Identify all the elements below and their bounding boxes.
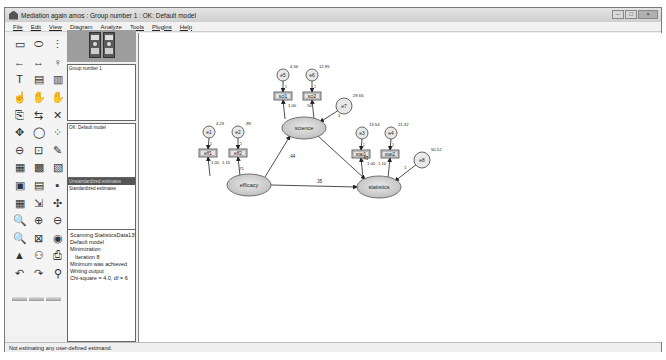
bayesian-icon: ▲ [14,250,25,261]
list-variables-model-icon: ▤ [34,74,44,85]
path-science-sci1[interactable] [283,100,285,119]
view-input-diagram-button[interactable] [89,32,101,58]
group-item[interactable]: Group number 1 [68,65,135,72]
undo-tool[interactable]: ↶ [10,265,29,283]
calculate-estimates-tool[interactable]: ▧ [48,159,67,177]
variance-label: 4.23 [216,121,225,126]
view-output-diagram-button[interactable] [103,32,115,58]
fit-to-page-tool[interactable]: ⊠ [29,230,48,248]
drag-properties-tool[interactable]: ⇲ [29,194,48,212]
log-line: Default model [68,239,135,246]
groups-panel: Group number 1 [67,64,136,121]
estimate-label: .54 [306,103,312,108]
menu-edit[interactable]: Edit [31,24,41,30]
menu-file[interactable]: File [13,24,23,30]
draw-path-tool[interactable]: ← [10,54,29,72]
select-all-tool[interactable]: ✋ [29,89,48,107]
path-diagram-canvas[interactable]: efficacysciencestatisticseff1eff2sci1sci… [138,33,662,342]
rotate-indicators-tool[interactable]: ◯ [29,124,48,142]
erase-object-tool[interactable]: ✕ [48,106,67,124]
path-statistics-stat1[interactable] [361,158,363,178]
loupe-tool[interactable]: ◉ [48,230,67,248]
menu-view[interactable]: View [49,24,62,30]
path-e1-eff1[interactable] [208,138,209,149]
scroll-diagram-tool[interactable]: ⊡ [29,142,48,160]
preserve-symmetries-tool[interactable]: ✣ [48,194,67,212]
move-parameter-icon: ⊖ [15,145,24,156]
change-shape-tool[interactable]: ✥ [10,124,29,142]
copy-object-tool[interactable]: ⎘ [10,106,29,124]
error-label: e7 [341,104,347,109]
data-files-tool[interactable]: ▦ [10,159,29,177]
zoom-page-tool[interactable]: 🔍 [10,230,29,248]
object-properties-tool[interactable]: ▦ [10,194,29,212]
standardized-estimates-item[interactable]: Standardized estimates [68,185,135,192]
menu-help[interactable]: Help [180,24,192,30]
view-text-tool[interactable]: ▤ [29,177,48,195]
figure-caption-tool[interactable]: T [10,71,29,89]
draw-indicator-tool[interactable]: ⋮ [48,36,67,54]
reflect-indicators-tool[interactable]: ⁘ [48,124,67,142]
zoom-in-area-tool[interactable]: 🔍 [10,212,29,230]
draw-observed-variable-icon: ▭ [15,39,25,50]
close-button[interactable]: × [638,10,658,19]
maximize-button[interactable]: □ [625,10,637,19]
deselect-all-tool[interactable]: ✋ [48,89,67,107]
print-tool[interactable]: ⎙ [48,247,67,265]
analysis-properties-tool[interactable]: ▩ [29,159,48,177]
variance-label: 50.12 [431,147,442,152]
menu-diagram[interactable]: Diagram [70,24,93,30]
add-unique-variable-icon: ♀ [53,57,61,68]
error-weight-label: 1 [285,85,287,89]
undo-icon: ↶ [15,268,24,279]
multiple-group-tool[interactable]: ⚇ [29,247,48,265]
path-efficacy-eff1[interactable] [208,157,210,176]
latent-label: science [295,125,314,131]
path-efficacy-statistics[interactable] [271,185,357,187]
copy-to-clipboard-tool[interactable]: ▣ [10,177,29,195]
erase-object-icon: ✕ [53,110,62,121]
draw-unobserved-variable-icon: ⬭ [34,39,43,50]
drag-properties-icon: ⇲ [34,198,43,209]
move-parameter-tool[interactable]: ⊖ [10,142,29,160]
menu-tools[interactable]: Tools [130,24,144,30]
sem-path-diagram: efficacysciencestatisticseff1eff2sci1sci… [139,33,663,342]
path-efficacy-science[interactable] [265,136,290,177]
path-e4-stat2[interactable] [390,139,391,150]
menu-plugins[interactable]: Plugins [152,24,172,30]
estimates-panel: Unstandardized estimates Standardized es… [67,177,136,234]
path-science-sci2[interactable] [312,100,314,119]
toolbox-scroll[interactable] [8,297,66,302]
unstandardized-estimates-item[interactable]: Unstandardized estimates [68,178,135,185]
move-object-icon: ⇆ [34,110,43,121]
redo-tool[interactable]: ↷ [29,265,48,283]
move-object-tool[interactable]: ⇆ [29,106,48,124]
minimize-button[interactable]: – [612,10,624,19]
draw-path-icon: ← [14,57,25,68]
zoom-in-tool[interactable]: ⊕ [29,212,48,230]
specification-search-tool[interactable]: ⚲ [48,265,67,283]
error-weight-label: 1 [392,143,394,147]
bayesian-tool[interactable]: ▲ [10,247,29,265]
save-diagram-tool[interactable]: ▪ [48,177,67,195]
zoom-in-icon: ⊕ [34,215,43,226]
draw-observed-variable-tool[interactable]: ▭ [10,36,29,54]
model-item[interactable]: OK: Default model [68,124,135,131]
scroll-diagram-icon: ⊡ [34,145,43,156]
draw-covariance-tool[interactable]: ↔ [29,54,48,72]
menu-analyze[interactable]: Analyze [101,24,122,30]
estimate-label: 1 [338,113,341,118]
log-line: Chi-square = 4.0, df = 6 [68,275,135,282]
touch-up-tool[interactable]: ✎ [48,142,67,160]
list-variables-model-tool[interactable]: ▤ [29,71,48,89]
list-variables-dataset-tool[interactable]: ▥ [48,71,67,89]
path-statistics-stat2[interactable] [388,158,390,178]
path-e7-science[interactable] [320,110,339,122]
add-unique-variable-tool[interactable]: ♀ [48,54,67,72]
amos-app-icon [9,11,18,20]
zoom-out-tool[interactable]: ⊖ [48,212,67,230]
rotate-indicators-icon: ◯ [33,127,45,138]
select-one-tool[interactable]: ☝ [10,89,29,107]
path-e3-stat1[interactable] [361,139,362,150]
draw-unobserved-variable-tool[interactable]: ⬭ [29,36,48,54]
